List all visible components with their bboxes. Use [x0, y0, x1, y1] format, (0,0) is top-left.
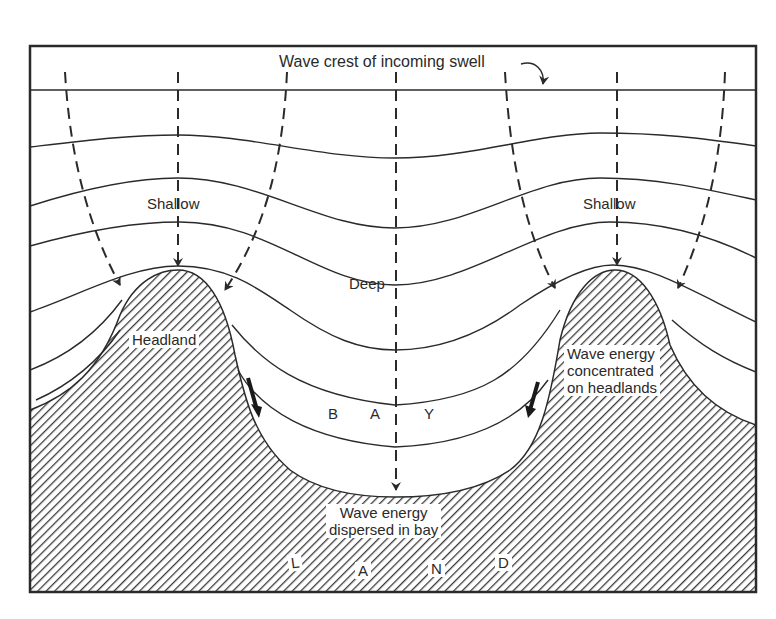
wave-crest-line-4 [30, 222, 756, 285]
label-energy-dispersed-line-1: Wave energy [329, 504, 438, 521]
label-energy-concentrated-line-2: concentrated [567, 362, 657, 379]
label-land-d: D [495, 554, 512, 571]
label-energy-dispersed: Wave energy dispersed in bay [326, 504, 441, 538]
longshore-arrow-right [530, 382, 538, 410]
longshore-arrows [248, 378, 538, 418]
label-energy-dispersed-line-2: dispersed in bay [329, 521, 438, 538]
label-land-n: N [428, 560, 445, 577]
land-area [30, 270, 756, 592]
label-shallow-left: Shallow [147, 195, 200, 212]
orthogonal-arrow-5 [505, 72, 555, 288]
wave-crest-line-3 [30, 178, 756, 228]
label-energy-concentrated: Wave energy concentrated on headlands [564, 345, 660, 396]
label-land-a: A [355, 562, 371, 579]
orthogonal-arrow-7 [678, 72, 725, 288]
wave-crest-line-1 [30, 89, 756, 90]
label-bay-y: Y [424, 405, 434, 422]
label-energy-concentrated-line-1: Wave energy [567, 345, 657, 362]
label-wave-crest: Wave crest of incoming swell [279, 53, 485, 70]
label-energy-concentrated-line-3: on headlands [567, 379, 657, 396]
label-bay-b: B [328, 405, 338, 422]
wave-crest-pointer [521, 63, 543, 84]
label-shallow-right: Shallow [583, 195, 636, 212]
label-bay-a: A [370, 405, 380, 422]
orthogonal-arrow-1 [65, 72, 120, 285]
label-land-l: L [287, 553, 304, 572]
orthogonal-arrow-3 [225, 72, 287, 290]
label-headland: Headland [129, 331, 199, 348]
label-deep: Deep [349, 275, 385, 292]
wave-crest-line-2 [30, 133, 756, 158]
